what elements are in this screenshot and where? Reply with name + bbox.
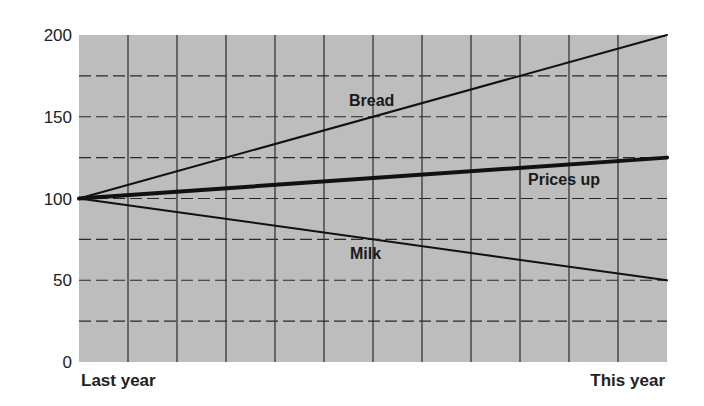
- label-prices-up: Prices up: [528, 171, 600, 188]
- y-axis-ticks: 050100150200: [44, 26, 72, 372]
- y-tick-label: 50: [53, 271, 72, 290]
- label-bread: Bread: [349, 92, 394, 109]
- x-label-last-year: Last year: [81, 371, 156, 390]
- x-label-this-year: This year: [590, 371, 665, 390]
- price-chart: 050100150200 Bread Prices up Milk Last y…: [0, 0, 704, 406]
- y-tick-label: 200: [44, 26, 72, 45]
- y-tick-label: 150: [44, 108, 72, 127]
- y-tick-label: 100: [44, 190, 72, 209]
- y-tick-label: 0: [63, 353, 72, 372]
- label-milk: Milk: [350, 245, 381, 262]
